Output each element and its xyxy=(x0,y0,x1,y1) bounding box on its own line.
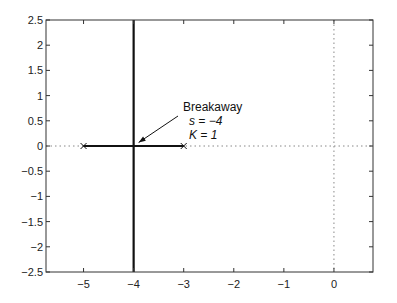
root-locus-branches xyxy=(84,20,184,272)
x-tick-labels: −5−4−3−2−10 xyxy=(77,278,337,290)
y-tick-label: −2 xyxy=(30,241,43,253)
annotation-title: Breakaway xyxy=(183,100,242,114)
x-tick-label: −4 xyxy=(127,278,140,290)
y-tick-label: 0.5 xyxy=(28,115,43,127)
annotation-s-value: s = −4 xyxy=(189,114,223,128)
y-tick-label: 1.5 xyxy=(28,64,43,76)
breakaway-annotation: Breakaway s = −4 K = 1 xyxy=(139,100,243,142)
x-tick-label: −1 xyxy=(278,278,291,290)
y-tick-label: 0 xyxy=(37,140,43,152)
y-tick-label: 2 xyxy=(37,39,43,51)
y-tick-label: 2.5 xyxy=(28,14,43,26)
root-locus-plot: −5−4−3−2−10 2.521.510.50−0.5−1−1.5−2−2.5… xyxy=(0,0,397,303)
annotation-arrow xyxy=(139,116,178,142)
x-tick-label: −2 xyxy=(228,278,241,290)
y-tick-labels: 2.521.510.50−0.5−1−1.5−2−2.5 xyxy=(21,14,43,278)
arrow-head-icon xyxy=(139,137,146,143)
x-tick-label: 0 xyxy=(331,278,337,290)
annotation-k-value: K = 1 xyxy=(189,128,217,142)
x-tick-label: −3 xyxy=(177,278,190,290)
x-tick-label: −5 xyxy=(77,278,90,290)
y-tick-label: −0.5 xyxy=(21,165,43,177)
y-tick-label: 1 xyxy=(37,90,43,102)
y-tick-label: −1.5 xyxy=(21,216,43,228)
y-tick-label: −1 xyxy=(30,190,43,202)
y-tick-label: −2.5 xyxy=(21,266,43,278)
